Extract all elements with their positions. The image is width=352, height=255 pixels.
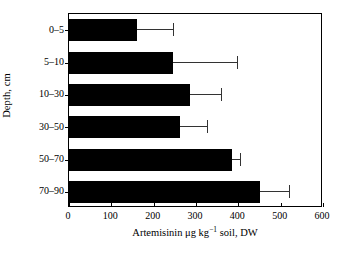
error-bar-cap — [289, 185, 290, 198]
error-bar-line — [173, 62, 237, 63]
bar-row — [69, 52, 323, 74]
bar — [69, 149, 232, 171]
error-bar-line — [260, 191, 290, 192]
y-tick-mark — [65, 63, 69, 64]
plot-area — [68, 13, 322, 207]
error-bar-cap — [237, 56, 238, 69]
x-tick-mark — [196, 203, 197, 207]
x-tick-label: 600 — [302, 209, 342, 222]
x-axis-title-tail: soil, DW — [217, 227, 258, 238]
chart-figure: Depth, cm 0–55–1010–3030–5050–7070–90 01… — [0, 0, 352, 255]
y-axis-tick-labels: 0–55–1010–3030–5050–7070–90 — [18, 13, 64, 207]
x-tick-label: 0 — [48, 209, 88, 222]
x-axis-title-exponent: −1 — [209, 225, 217, 234]
x-tick-mark — [154, 203, 155, 207]
y-tick-label: 5–10 — [18, 56, 64, 67]
y-tick-label: 10–30 — [18, 88, 64, 99]
bar-row — [69, 116, 323, 138]
plot-inner — [69, 14, 321, 206]
bar — [69, 181, 260, 203]
error-bar-line — [190, 94, 221, 95]
error-bar-line — [180, 126, 206, 127]
bar — [69, 116, 180, 138]
x-tick-mark — [323, 203, 324, 207]
bar-row — [69, 19, 323, 41]
x-axis-tick-labels: 0100200300400500600 — [68, 209, 322, 223]
x-axis-title-main: Artemisinin μg kg — [132, 227, 209, 238]
y-tick-mark — [65, 30, 69, 31]
error-bar-cap — [207, 120, 208, 133]
x-tick-mark — [238, 203, 239, 207]
bar-row — [69, 181, 323, 203]
x-axis-title: Artemisinin μg kg−1 soil, DW — [68, 226, 322, 239]
error-bar-cap — [173, 23, 174, 36]
error-bar-cap — [221, 88, 222, 101]
bar — [69, 52, 173, 74]
x-tick-mark — [69, 203, 70, 207]
bar-row — [69, 84, 323, 106]
x-tick-label: 300 — [175, 209, 215, 222]
x-tick-label: 500 — [260, 209, 300, 222]
y-tick-label: 50–70 — [18, 153, 64, 164]
x-tick-label: 200 — [133, 209, 173, 222]
y-tick-label: 70–90 — [18, 185, 64, 196]
x-tick-mark — [111, 203, 112, 207]
y-axis-title: Depth, cm — [0, 0, 14, 193]
y-tick-mark — [65, 192, 69, 193]
bar-row — [69, 149, 323, 171]
error-bar-line — [232, 159, 240, 160]
x-tick-mark — [281, 203, 282, 207]
error-bar-line — [137, 29, 173, 30]
y-tick-mark — [65, 95, 69, 96]
error-bar-cap — [240, 153, 241, 166]
y-tick-label: 0–5 — [18, 24, 64, 35]
bar — [69, 19, 137, 41]
bar — [69, 84, 190, 106]
x-tick-label: 400 — [217, 209, 257, 222]
y-tick-mark — [65, 160, 69, 161]
y-tick-label: 30–50 — [18, 121, 64, 132]
x-tick-label: 100 — [90, 209, 130, 222]
y-tick-mark — [65, 127, 69, 128]
